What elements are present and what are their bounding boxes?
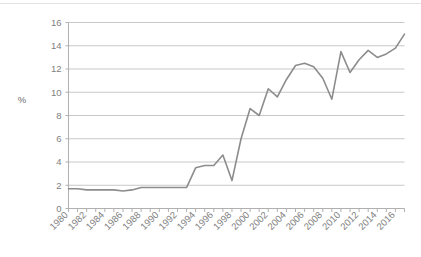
chart-container: 0246810121416 19801982198419861988199019…	[0, 0, 421, 257]
svg-text:2000: 2000	[229, 209, 252, 232]
svg-text:1988: 1988	[120, 209, 143, 232]
svg-text:4: 4	[56, 156, 61, 167]
svg-text:2014: 2014	[356, 209, 379, 232]
line-chart: 0246810121416 19801982198419861988199019…	[0, 0, 421, 257]
svg-text:1990: 1990	[138, 209, 161, 232]
y-axis-title: %	[18, 94, 27, 105]
svg-text:2010: 2010	[320, 209, 343, 232]
svg-text:1980: 1980	[47, 209, 70, 232]
svg-text:6: 6	[56, 133, 61, 144]
top-divider	[0, 3, 421, 4]
svg-text:16: 16	[51, 17, 62, 28]
svg-text:1986: 1986	[102, 209, 125, 232]
svg-text:2002: 2002	[247, 209, 270, 232]
svg-text:12: 12	[51, 63, 62, 74]
svg-text:2: 2	[56, 180, 61, 191]
svg-text:2008: 2008	[301, 209, 324, 232]
svg-text:1994: 1994	[174, 209, 197, 232]
y-tick-labels: 0246810121416	[51, 17, 69, 214]
svg-text:2016: 2016	[374, 209, 397, 232]
data-series-line	[69, 34, 405, 191]
svg-text:10: 10	[51, 87, 62, 98]
svg-text:14: 14	[51, 40, 62, 51]
svg-text:2004: 2004	[265, 209, 288, 232]
svg-text:8: 8	[56, 110, 61, 121]
svg-text:1992: 1992	[156, 209, 179, 232]
svg-text:1996: 1996	[192, 209, 215, 232]
x-tick-labels: 1980198219841986198819901992199419961998…	[47, 209, 397, 232]
svg-text:1998: 1998	[211, 209, 234, 232]
svg-text:1984: 1984	[84, 209, 107, 232]
svg-text:2006: 2006	[283, 209, 306, 232]
svg-text:2012: 2012	[338, 209, 361, 232]
svg-text:1982: 1982	[65, 209, 88, 232]
